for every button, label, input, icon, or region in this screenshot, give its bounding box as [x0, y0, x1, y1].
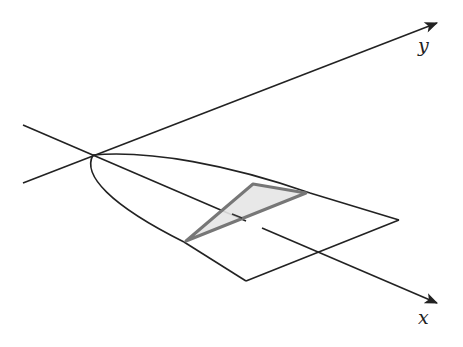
- x-axis: [23, 125, 230, 214]
- y-axis-label: y: [417, 34, 429, 56]
- y-axis: [23, 23, 437, 183]
- x-axis-label: x: [418, 306, 429, 328]
- diagram-canvas: y x: [0, 0, 463, 347]
- parabola-lower-branch: [91, 155, 184, 242]
- base-region: [184, 193, 399, 281]
- cross-section-triangle: [186, 184, 306, 241]
